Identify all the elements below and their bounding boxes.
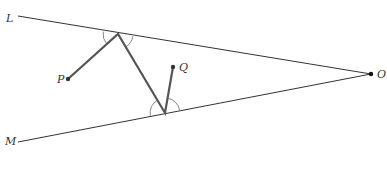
label-O: O	[377, 68, 386, 81]
point-Q	[171, 65, 175, 69]
label-Q: Q	[179, 61, 188, 74]
label-L: L	[5, 12, 13, 25]
line-M	[18, 74, 371, 142]
angle-arc-M-right	[168, 98, 180, 110]
angle-arc-M-left	[150, 100, 157, 116]
reflection-path	[68, 34, 173, 113]
point-P	[66, 77, 70, 81]
point-O	[369, 72, 373, 76]
angle-arc-L-left	[103, 32, 107, 44]
label-P: P	[56, 73, 65, 86]
line-L	[18, 16, 371, 74]
label-M: M	[4, 135, 17, 148]
angle-arc-L-right	[126, 37, 133, 47]
reflection-diagram: L M O P Q	[0, 0, 387, 171]
